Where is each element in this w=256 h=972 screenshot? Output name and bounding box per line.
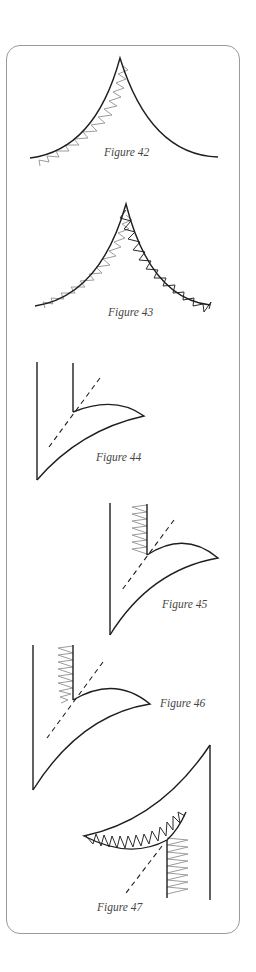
dashed-guideline [49,378,100,447]
figure-46: Figure 46 [33,645,205,790]
curve-outline [84,745,210,849]
figures-illustration: Figure 42 Figure 43 Figure 44 Figure 45 … [0,0,256,972]
figure-45: Figure 45 [110,503,218,635]
figure-caption: Figure 47 [96,901,143,914]
curve-outline [33,688,150,790]
figure-caption: Figure 42 [103,146,149,159]
zigzag-stitch-gray [58,646,73,703]
zigzag-stitch-gray [132,505,147,554]
figure-47: Figure 47 [84,745,210,914]
curve-outline [110,543,218,635]
figure-caption: Figure 44 [95,451,141,464]
figure-42: Figure 42 [30,58,218,166]
zigzag-stitch-dark [120,210,211,312]
figure-caption: Figure 46 [159,697,205,710]
dashed-guideline [47,662,103,738]
figure-44: Figure 44 [37,362,144,480]
dashed-guideline [126,846,162,893]
zigzag-stitch-gray [43,215,132,308]
curve-outline [35,204,210,306]
curve-outline [37,404,144,480]
figure-caption: Figure 43 [107,306,153,319]
curve-outline [30,58,218,158]
zigzag-stitch-gray [167,838,188,894]
figure-caption: Figure 45 [161,598,207,611]
figure-43: Figure 43 [35,204,211,319]
